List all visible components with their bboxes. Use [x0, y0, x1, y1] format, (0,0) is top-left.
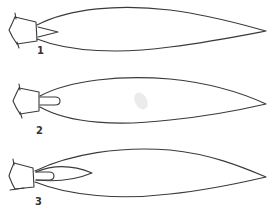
flame-diagram: 1 2 3	[0, 0, 278, 212]
outer-flame-2	[40, 78, 266, 123]
outer-flame-1	[37, 7, 266, 51]
flame-label-2: 2	[36, 124, 43, 137]
burner-nozzle-3	[14, 163, 34, 189]
inner-cone-2	[40, 97, 60, 105]
inner-cone-3	[36, 172, 54, 180]
flame-label-3: 3	[35, 195, 42, 208]
flame-3: 3	[9, 149, 266, 208]
burner-nozzle-2	[19, 88, 39, 114]
burner-nozzle-1	[15, 17, 37, 44]
inner-cone-1	[38, 27, 58, 37]
middle-cone-3	[36, 167, 92, 181]
flame-label-1: 1	[37, 44, 44, 57]
outer-flame-3	[35, 149, 266, 197]
flame-1: 1	[9, 7, 266, 57]
